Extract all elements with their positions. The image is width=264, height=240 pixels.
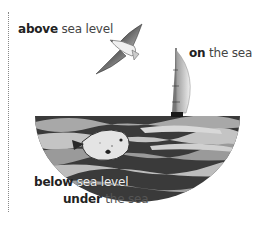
label-under-the-sea: under the sea [63, 192, 148, 206]
label-on-bold: on [189, 46, 205, 60]
label-on-rest: the sea [205, 46, 252, 60]
label-above-rest: sea level [58, 22, 113, 36]
sailboat-icon [171, 48, 190, 118]
label-above-bold: above [18, 22, 58, 36]
label-on-the-sea: on the sea [189, 46, 252, 60]
label-under-bold: under [63, 192, 102, 206]
label-below-rest: sea level [73, 175, 128, 189]
label-above-sea-level: above sea level [18, 22, 113, 36]
label-below-sea-level: below sea level [34, 175, 128, 189]
label-below-bold: below [34, 175, 73, 189]
label-under-rest: the sea [102, 192, 149, 206]
